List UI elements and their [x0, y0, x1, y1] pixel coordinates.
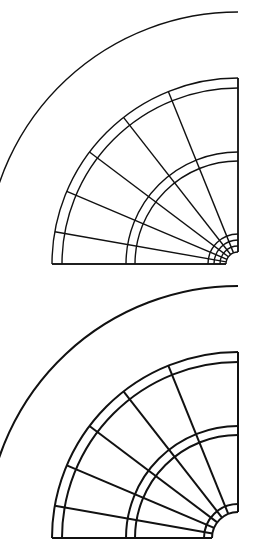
radial-spoke-5	[55, 506, 213, 534]
upper-sector-svg	[0, 0, 263, 278]
radial-spoke-4	[67, 191, 227, 259]
outer-boundary-arc	[0, 286, 238, 520]
ring-arc-0	[226, 252, 238, 264]
lower-quarter-sector-drawing	[0, 278, 263, 552]
drawing-page	[0, 0, 263, 552]
radial-spoke-4	[67, 465, 214, 528]
radial-spoke-2	[123, 391, 222, 517]
outer-boundary-arc	[0, 12, 238, 246]
lower-sector-svg	[0, 278, 263, 552]
upper-quarter-sector-drawing	[0, 0, 263, 278]
radial-spoke-1	[168, 92, 233, 253]
lower-sector-geometry	[0, 286, 238, 538]
ring-arc-0	[212, 512, 238, 538]
upper-sector-geometry	[0, 12, 238, 264]
